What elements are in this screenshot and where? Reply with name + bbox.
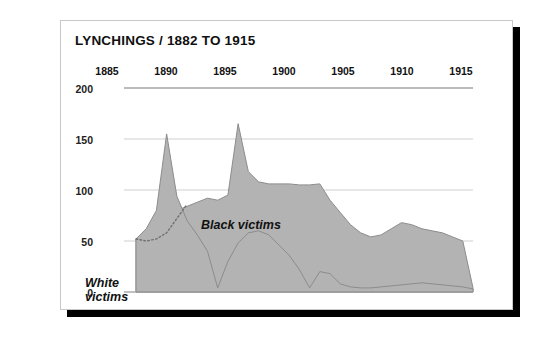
- series-label-black-victims: Black victims: [201, 218, 281, 232]
- screenshot-root: LYNCHINGS / 1882 TO 1915 200 150 100 50 …: [0, 0, 535, 349]
- y-axis-tick-100: 100: [59, 185, 93, 197]
- chart-plot-area: 200 150 100 50 0 1885 1890 1895 1900 190…: [61, 21, 514, 311]
- x-axis-tick-1895: 1895: [205, 65, 245, 77]
- chart-card: LYNCHINGS / 1882 TO 1915 200 150 100 50 …: [60, 20, 513, 310]
- series-label-white-victims: White victims: [85, 276, 128, 304]
- y-axis-tick-200: 200: [59, 83, 93, 95]
- x-axis-tick-1885: 1885: [87, 65, 127, 77]
- x-axis-tick-1890: 1890: [146, 65, 186, 77]
- x-axis-tick-1910: 1910: [382, 65, 422, 77]
- x-axis-tick-1905: 1905: [323, 65, 363, 77]
- x-axis-tick-1915: 1915: [441, 65, 481, 77]
- y-axis-tick-50: 50: [59, 236, 93, 248]
- x-axis-tick-1900: 1900: [264, 65, 304, 77]
- y-axis-tick-150: 150: [59, 134, 93, 146]
